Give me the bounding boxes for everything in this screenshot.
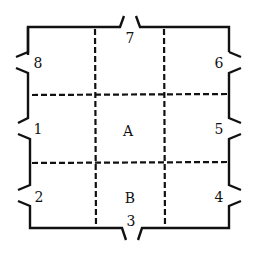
wall-left-segment-1-8 <box>16 68 28 123</box>
opening-label-6: 6 <box>215 55 224 71</box>
grid-vertical-right <box>164 29 165 226</box>
room-labels: A B <box>122 123 135 206</box>
grid-vertical-left <box>95 29 96 226</box>
wall-right-segment-5-4 <box>229 134 241 190</box>
wall-top-right <box>136 16 229 52</box>
opening-label-3: 3 <box>127 213 136 229</box>
wall-bottom-left <box>18 201 126 240</box>
room-label-b: B <box>125 190 135 206</box>
opening-label-1: 1 <box>34 121 43 137</box>
opening-label-8: 8 <box>34 55 43 71</box>
wall-left-upper-flare <box>16 27 28 57</box>
opening-label-4: 4 <box>215 189 224 205</box>
opening-label-2: 2 <box>35 189 44 205</box>
opening-label-7: 7 <box>126 30 135 46</box>
wall-left-segment-2-1 <box>18 134 30 190</box>
wall-right-segment-6-5 <box>229 68 241 123</box>
opening-label-5: 5 <box>215 121 224 137</box>
grid-horizontal-bottom <box>32 162 227 163</box>
floor-plan-diagram: 7 8 6 1 5 2 4 3 A B <box>0 0 254 256</box>
wall-right-lower <box>138 201 241 240</box>
wall-right-upper-flare <box>229 52 241 57</box>
grid-horizontal-top <box>32 94 227 95</box>
wall-top-left <box>28 16 124 55</box>
room-label-a: A <box>122 123 134 139</box>
diagram-canvas: 7 8 6 1 5 2 4 3 A B <box>0 0 254 256</box>
